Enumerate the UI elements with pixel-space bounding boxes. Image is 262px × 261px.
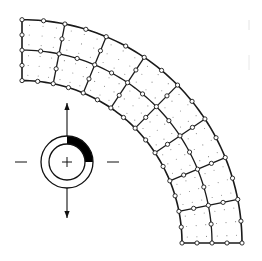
integration-point <box>81 43 82 44</box>
integration-point <box>53 47 54 48</box>
integration-point <box>171 133 172 134</box>
mesh-node <box>75 56 79 60</box>
mesh-node <box>203 117 207 121</box>
integration-point <box>72 72 73 73</box>
mesh-node <box>209 222 213 226</box>
mesh-nodes <box>20 18 244 246</box>
mesh-node <box>20 48 24 52</box>
integration-point <box>124 98 125 99</box>
mesh-node <box>104 35 108 39</box>
mesh-node <box>239 219 243 223</box>
mesh-element-edges <box>22 20 242 243</box>
mesh-node <box>20 63 24 67</box>
integration-point <box>71 30 72 31</box>
integration-point <box>108 100 109 101</box>
mesh-node <box>221 200 225 204</box>
integration-point <box>178 94 179 95</box>
mesh-node <box>195 241 199 245</box>
mesh-node <box>175 83 179 87</box>
integration-point <box>180 127 181 128</box>
integration-point <box>93 48 94 49</box>
mesh-node <box>190 99 194 103</box>
integration-point <box>62 70 63 71</box>
integration-point <box>107 53 108 54</box>
integration-point <box>99 94 100 95</box>
mesh-node <box>144 115 148 119</box>
mesh-node <box>202 185 206 189</box>
integration-point <box>176 159 177 160</box>
integration-point <box>145 89 146 90</box>
mesh-node <box>109 71 113 75</box>
integration-point <box>29 35 30 36</box>
mesh-node <box>57 52 61 56</box>
integration-point <box>216 223 217 224</box>
integration-point <box>156 144 157 145</box>
integration-point <box>78 53 79 54</box>
integration-point <box>218 182 219 183</box>
integration-point <box>167 163 168 164</box>
mesh-node <box>165 142 169 146</box>
integration-point <box>163 139 164 140</box>
mesh-node <box>51 82 55 86</box>
integration-point <box>90 57 91 58</box>
integration-point <box>90 90 91 91</box>
mesh-node <box>93 63 97 67</box>
integration-point <box>155 97 156 98</box>
mesh-node <box>20 33 24 37</box>
integration-point <box>172 117 173 118</box>
integration-point <box>113 91 114 92</box>
integration-point <box>126 113 127 114</box>
mesh-node <box>133 126 137 130</box>
integration-point <box>233 208 234 209</box>
integration-point <box>187 104 188 105</box>
integration-point <box>157 130 158 131</box>
integration-point <box>42 35 43 36</box>
integration-point <box>139 98 140 99</box>
integration-point <box>196 225 197 226</box>
integration-point <box>69 40 70 41</box>
mesh-node <box>134 68 138 72</box>
integration-point <box>222 166 223 167</box>
mesh-node <box>178 134 182 138</box>
mesh-node <box>223 155 227 159</box>
integration-point <box>79 85 80 86</box>
mesh-node <box>187 150 191 154</box>
mesh-node <box>95 98 99 102</box>
integration-point <box>142 128 143 129</box>
integration-point <box>189 191 190 192</box>
integration-point <box>217 235 218 236</box>
integration-point <box>141 74 142 75</box>
integration-point <box>161 90 162 91</box>
mesh-node <box>142 55 146 59</box>
mesh-node <box>240 241 244 245</box>
mesh-node <box>125 81 129 85</box>
mesh-node <box>167 119 171 123</box>
integration-point <box>235 221 236 222</box>
integration-point <box>118 106 119 107</box>
integration-point <box>83 76 84 77</box>
integration-point <box>198 188 199 189</box>
integration-point <box>204 128 205 129</box>
mesh-node <box>20 79 24 83</box>
integration-point <box>147 105 148 106</box>
integration-point <box>170 149 171 150</box>
integration-point <box>111 44 112 45</box>
integration-point <box>75 63 76 64</box>
integration-point <box>194 149 195 150</box>
mesh-node <box>179 225 183 229</box>
integration-point <box>29 25 30 26</box>
integration-point <box>158 74 159 75</box>
mesh-node <box>121 115 125 119</box>
integration-point <box>172 173 173 174</box>
mesh-node <box>98 49 102 53</box>
integration-point <box>129 65 130 66</box>
integration-point <box>104 86 105 87</box>
integration-point <box>134 120 135 121</box>
integration-point <box>124 74 125 75</box>
mesh-node <box>159 68 163 72</box>
integration-point <box>54 37 55 38</box>
arrow-down-icon <box>64 211 69 218</box>
integration-point <box>212 197 213 198</box>
integration-point <box>188 138 189 139</box>
mesh-node <box>182 173 186 177</box>
